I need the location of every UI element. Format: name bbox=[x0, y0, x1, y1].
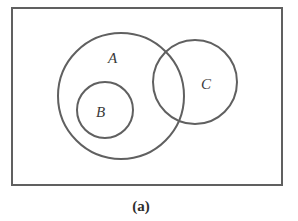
set-a-label: A bbox=[107, 50, 118, 66]
universe-rectangle bbox=[12, 8, 282, 185]
set-c-label: C bbox=[201, 76, 212, 92]
set-c-circle bbox=[153, 40, 237, 124]
figure-caption: (a) bbox=[0, 198, 282, 215]
set-b-label: B bbox=[96, 104, 105, 120]
venn-diagram: A B C bbox=[0, 0, 298, 221]
